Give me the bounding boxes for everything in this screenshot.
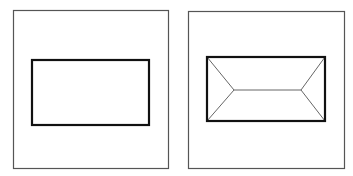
panel-frame	[14, 11, 169, 169]
panel-rectangle-with-skeleton	[189, 12, 345, 169]
panel-plain-rectangle	[14, 11, 169, 169]
skeleton-edge	[301, 90, 325, 121]
rectangle-outline	[32, 60, 149, 125]
rectangle-outline	[207, 57, 325, 121]
skeleton-edge	[207, 57, 234, 90]
diagram-canvas	[0, 0, 353, 176]
skeleton-edge	[207, 90, 234, 121]
skeleton-edge	[301, 57, 325, 90]
